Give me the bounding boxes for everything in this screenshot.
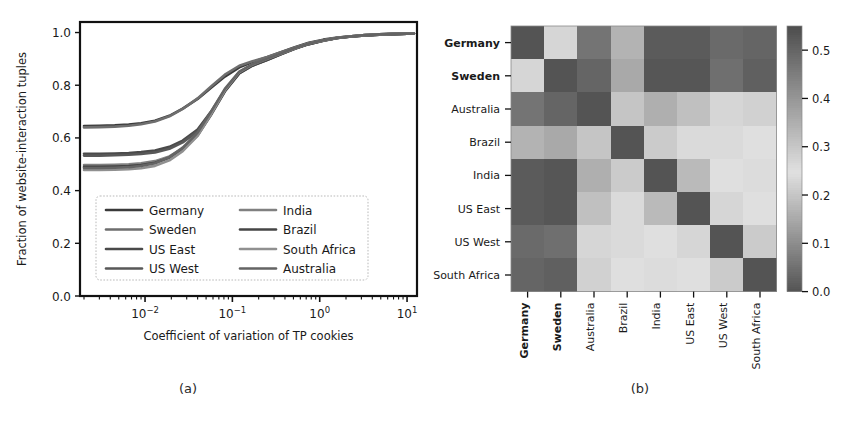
- heatmap-cell: [710, 126, 744, 160]
- heatmap-cell: [611, 225, 645, 259]
- heatmap-cell: [577, 258, 611, 292]
- heatmap-cell: [611, 192, 645, 226]
- heatmap-col-label-south-africa: South Africa: [750, 303, 763, 370]
- y-axis-label: Fraction of website-interaction tuples: [15, 52, 29, 266]
- heatmap-cell: [743, 59, 777, 93]
- heatmap-row-label-sweden: Sweden: [451, 70, 500, 83]
- heatmap-cell: [644, 59, 678, 93]
- heatmap-cell: [710, 59, 744, 93]
- heatmap-cell: [644, 225, 678, 259]
- heatmap-cell: [511, 258, 545, 292]
- heatmap-cell: [677, 159, 711, 193]
- y-tick-label: 0.8: [52, 79, 71, 93]
- colorbar-tick-label: 0.3: [812, 140, 830, 154]
- colorbar-tick-label: 0.2: [812, 189, 830, 203]
- heatmap-cell: [611, 126, 645, 160]
- heatmap-cell: [544, 159, 578, 193]
- heatmap-cell: [644, 258, 678, 292]
- x-tick-label: 10−2: [131, 305, 159, 321]
- heatmap-cell: [611, 26, 645, 60]
- heatmap-cell: [743, 26, 777, 60]
- legend-label-india: India: [283, 204, 312, 218]
- heatmap-cell: [611, 92, 645, 126]
- heatmap-row-label-india: India: [473, 169, 500, 182]
- heatmap-cell: [743, 225, 777, 259]
- heatmap-cell: [743, 192, 777, 226]
- legend-label-us-west: US West: [149, 262, 199, 276]
- heatmap-cell: [577, 92, 611, 126]
- heatmap-cell: [644, 26, 678, 60]
- legend-label-us-east: US East: [149, 243, 195, 257]
- heatmap-cell: [577, 59, 611, 93]
- heatmap-cell: [544, 59, 578, 93]
- heatmap-cell: [611, 159, 645, 193]
- heatmap-row-label-australia: Australia: [451, 103, 500, 116]
- panel-b-heatmap: GermanySwedenAustraliaBrazilIndiaUS East…: [429, 0, 858, 375]
- y-tick-label: 0.6: [52, 131, 71, 145]
- heatmap-cell: [577, 126, 611, 160]
- heatmap-cell: [611, 59, 645, 93]
- heatmap-cell: [677, 225, 711, 259]
- legend-label-germany: Germany: [149, 204, 204, 218]
- heatmap-row-label-us-west: US West: [454, 236, 500, 249]
- heatmap-cell: [511, 159, 545, 193]
- heatmap-cell: [544, 26, 578, 60]
- heatmap-row-label-us-east: US East: [458, 203, 501, 216]
- heatmap-cell: [710, 26, 744, 60]
- heatmap-col-label-germany: Germany: [518, 303, 531, 359]
- caption-b: (b): [610, 381, 670, 396]
- heatmap-cell: [644, 159, 678, 193]
- legend-label-australia: Australia: [283, 262, 336, 276]
- heatmap-cell: [577, 26, 611, 60]
- heatmap-cell: [511, 126, 545, 160]
- caption-a: (a): [158, 381, 218, 396]
- heatmap-row-label-brazil: Brazil: [469, 136, 500, 149]
- heatmap-cell: [710, 258, 744, 292]
- heatmap-cell: [544, 126, 578, 160]
- heatmap-cell: [677, 192, 711, 226]
- heatmap-row-label-germany: Germany: [444, 37, 500, 50]
- cdf-chart-svg: 0.00.20.40.60.81.010−210−1100101Coeffici…: [0, 0, 429, 375]
- heatmap-cell: [743, 92, 777, 126]
- colorbar-tick-label: 0.4: [812, 92, 830, 106]
- heatmap-cell: [577, 159, 611, 193]
- heatmap-cell: [677, 26, 711, 60]
- heatmap-cell: [511, 192, 545, 226]
- x-tick-label: 101: [397, 305, 418, 321]
- heatmap-cell: [544, 225, 578, 259]
- heatmap-cell: [511, 59, 545, 93]
- heatmap-cell: [677, 126, 711, 160]
- x-axis-label: Coefficient of variation of TP cookies: [143, 329, 353, 343]
- x-tick-label: 10−1: [218, 305, 246, 321]
- heatmap-cell: [710, 192, 744, 226]
- heatmap-row-label-south-africa: South Africa: [433, 269, 500, 282]
- y-tick-label: 1.0: [52, 26, 71, 40]
- heatmap-cell: [544, 192, 578, 226]
- colorbar-tick-label: 0.1: [812, 237, 830, 251]
- heatmap-cell: [511, 26, 545, 60]
- heatmap-col-label-us-west: US West: [717, 302, 730, 348]
- heatmap-cell: [577, 225, 611, 259]
- colorbar-tick-label: 0.0: [812, 285, 830, 299]
- y-tick-label: 0.4: [52, 184, 71, 198]
- figure-root: 0.00.20.40.60.81.010−210−1100101Coeffici…: [0, 0, 858, 421]
- heatmap-cell: [511, 225, 545, 259]
- heatmap-cell: [544, 92, 578, 126]
- heatmap-cell: [644, 92, 678, 126]
- heatmap-cell: [677, 92, 711, 126]
- heatmap-cell: [611, 258, 645, 292]
- heatmap-col-label-sweden: Sweden: [551, 303, 564, 352]
- panel-a-cdf-plot: 0.00.20.40.60.81.010−210−1100101Coeffici…: [0, 0, 429, 375]
- legend-label-south-africa: South Africa: [283, 243, 356, 257]
- heatmap-cell: [743, 159, 777, 193]
- heatmap-cell: [544, 258, 578, 292]
- y-tick-label: 0.2: [52, 237, 71, 251]
- heatmap-col-label-us-east: US East: [684, 302, 697, 345]
- heatmap-col-label-australia: Australia: [584, 303, 597, 352]
- heatmap-cell: [677, 258, 711, 292]
- y-tick-label: 0.0: [52, 290, 71, 304]
- heatmap-cell: [577, 192, 611, 226]
- heatmap-cell: [511, 92, 545, 126]
- heatmap-cell: [644, 126, 678, 160]
- heatmap-cell: [710, 92, 744, 126]
